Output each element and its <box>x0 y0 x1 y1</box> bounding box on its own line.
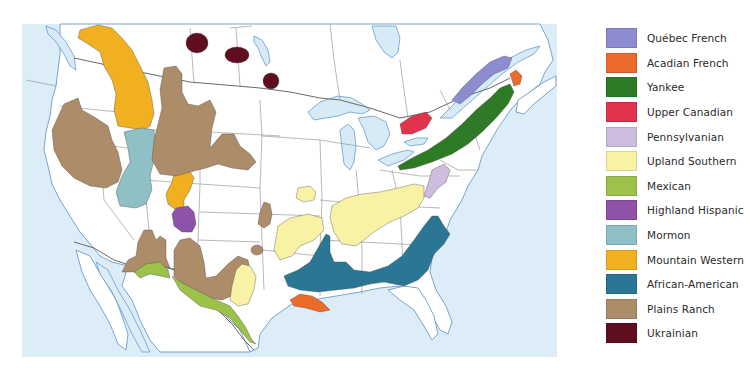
legend-swatch <box>606 200 637 220</box>
legend-swatch <box>606 77 637 97</box>
legend-item-mexican: Mexican <box>606 174 750 199</box>
legend-item-mountain-western: Mountain Western <box>606 247 750 272</box>
legend-item-upland-southern: Upland Southern <box>606 149 750 174</box>
legend-label: Ukrainian <box>647 327 698 339</box>
legend-swatch <box>606 299 637 319</box>
legend-item-upper-canadian: Upper Canadian <box>606 100 750 125</box>
region-plains-ranch <box>251 245 263 255</box>
legend-item-quebec-french: Québec French <box>606 26 750 51</box>
legend-label: Mexican <box>647 180 691 192</box>
legend-item-acadian-french: Acadian French <box>606 51 750 76</box>
region-ukrainian <box>186 33 208 53</box>
legend-swatch <box>606 102 637 122</box>
legend-label: Upper Canadian <box>647 106 733 118</box>
legend-item-ukrainian: Ukrainian <box>606 321 750 346</box>
legend-label: Mountain Western <box>647 254 744 266</box>
legend-label: Québec French <box>647 32 727 44</box>
legend-item-african-american: African-American <box>606 272 750 297</box>
legend-swatch <box>606 127 637 147</box>
legend-swatch <box>606 274 637 294</box>
legend-label: Plains Ranch <box>647 303 715 315</box>
legend-label: Yankee <box>647 81 684 93</box>
legend-label: Pennsylvanian <box>647 131 724 143</box>
cultural-regions-map <box>0 0 600 368</box>
legend-item-pennsylvanian: Pennsylvanian <box>606 124 750 149</box>
legend-swatch <box>606 225 637 245</box>
legend-item-highland-hispanic: Highland Hispanic <box>606 198 750 223</box>
legend-swatch <box>606 176 637 196</box>
legend-label: Upland Southern <box>647 155 737 167</box>
region-ukrainian <box>225 47 249 63</box>
legend-label: Highland Hispanic <box>647 204 744 216</box>
map-legend: Québec French Acadian French Yankee Uppe… <box>606 26 750 346</box>
legend-item-mormon: Mormon <box>606 223 750 248</box>
legend-swatch <box>606 53 637 73</box>
legend-label: African-American <box>647 278 739 290</box>
legend-swatch <box>606 323 637 343</box>
region-ukrainian <box>263 73 279 89</box>
legend-item-yankee: Yankee <box>606 75 750 100</box>
legend-label: Acadian French <box>647 57 729 69</box>
legend-swatch <box>606 28 637 48</box>
legend-swatch <box>606 151 637 171</box>
legend-label: Mormon <box>647 229 691 241</box>
legend-swatch <box>606 250 637 270</box>
legend-item-plains-ranch: Plains Ranch <box>606 297 750 322</box>
